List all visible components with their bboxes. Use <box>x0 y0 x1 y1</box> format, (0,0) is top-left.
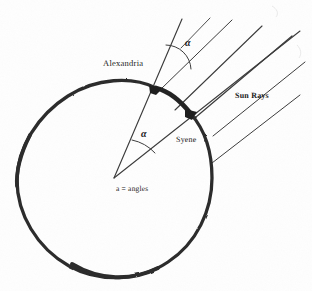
eratosthenes-diagram: Alexandria Syene Sun Rays a = angles α α <box>0 0 312 291</box>
label-alexandria: Alexandria <box>103 58 143 68</box>
label-angle-caption: a = angles <box>116 184 148 193</box>
label-alpha-center: α <box>141 128 147 139</box>
label-syene: Syene <box>176 135 197 144</box>
paper-grain <box>0 0 312 291</box>
label-alpha-alexandria: α <box>185 37 191 48</box>
diagram-canvas <box>0 0 312 291</box>
label-sun-rays: Sun Rays <box>235 91 269 100</box>
